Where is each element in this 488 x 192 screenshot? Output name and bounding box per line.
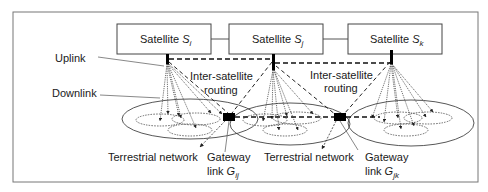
gateway-node-ij xyxy=(223,113,235,121)
antenna-k xyxy=(390,50,393,64)
downlink-leader xyxy=(100,95,160,98)
isr-label-2: Inter-satellite xyxy=(310,69,373,81)
isr-label-2b: routing xyxy=(324,82,358,94)
antenna-j xyxy=(272,54,275,70)
spot-beams xyxy=(136,112,452,136)
beams-satellite-k xyxy=(372,64,433,129)
gateway-node-jk xyxy=(334,113,346,121)
coverage-areas xyxy=(122,99,474,146)
satellite-box-i: Satellite Si xyxy=(117,24,211,54)
svg-text:Gateway: Gateway xyxy=(207,151,251,163)
antenna-i xyxy=(166,54,169,64)
beams-satellite-j xyxy=(263,70,313,130)
satellite-box-j: Satellite Sj xyxy=(229,24,323,54)
isr-label-1b: routing xyxy=(204,84,238,96)
satellite-network-diagram: Satellite Si Satellite Sj Satellite Sk xyxy=(0,0,488,192)
gateway-label-ij: Gateway link Gij xyxy=(207,151,251,180)
satellite-box-k: Satellite Sk xyxy=(348,24,442,54)
downlink-label: Downlink xyxy=(52,87,97,99)
uplink-leader xyxy=(98,57,164,66)
isr-label-1: Inter-satellite xyxy=(190,70,253,82)
terrestrial-network-label-2: Terrestrial network xyxy=(264,151,354,163)
uplink-label: Uplink xyxy=(55,52,86,64)
terrestrial-arrows xyxy=(200,121,336,149)
svg-text:link Gij: link Gij xyxy=(207,165,239,180)
terrestrial-network-label-1: Terrestrial network xyxy=(108,151,198,163)
svg-text:link Gjk: link Gjk xyxy=(365,165,400,180)
inter-satellite-routes xyxy=(169,59,390,63)
gateway-label-jk: Gateway link Gjk xyxy=(365,151,409,180)
svg-text:Gateway: Gateway xyxy=(365,151,409,163)
